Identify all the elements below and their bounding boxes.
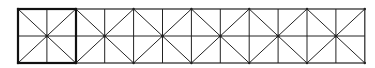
tile-corner-dot xyxy=(190,62,192,64)
tile-corner-dot xyxy=(306,8,308,10)
tile-center-dot xyxy=(103,34,106,37)
tile-corner-dot xyxy=(364,62,366,64)
tiled-square-diagram xyxy=(0,0,375,68)
tile-group xyxy=(17,8,366,64)
tile-corner-dot xyxy=(132,8,134,10)
tile-corner-dot xyxy=(306,62,308,64)
tile-center-dot xyxy=(45,34,48,37)
tile-center-dot xyxy=(161,34,164,37)
tile-corner-dot xyxy=(248,8,250,10)
tile-corner-dot xyxy=(248,62,250,64)
tile-corner-dot xyxy=(190,8,192,10)
tile-corner-dot xyxy=(364,8,366,10)
tile-center-dot xyxy=(219,34,222,37)
tile-center-dot xyxy=(277,34,280,37)
tile-center-dot xyxy=(334,34,337,37)
tile-corner-dot xyxy=(132,62,134,64)
